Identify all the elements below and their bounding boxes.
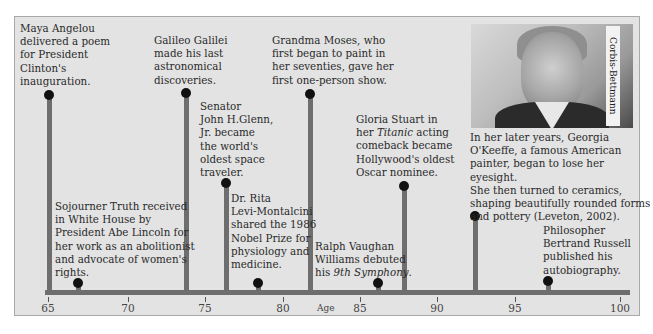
tick-label-65: 65 (41, 302, 54, 314)
label-russell: Philosopher Bertrand Russell published h… (543, 224, 631, 277)
label-truth: Sojourner Truth received in White House … (55, 200, 195, 279)
label-levi: Dr. Rita Levi-Montalcini shared the 1986… (231, 192, 316, 271)
tick-label-85: 85 (353, 302, 366, 314)
spike-okeeffe (473, 218, 478, 291)
axis-label-age: Age (317, 303, 335, 313)
photo-credit: Corbis-Bettmann (606, 26, 620, 126)
spike-glenn (224, 185, 229, 291)
tick-label-75: 75 (198, 302, 211, 314)
label-williams: Ralph Vaughan Williams debuted his 9th S… (315, 240, 412, 280)
spike-angelou (47, 95, 52, 291)
age-axis (45, 290, 630, 295)
tick-label-70: 70 (121, 302, 134, 314)
dot-glenn (221, 178, 231, 188)
dot-levi (253, 278, 263, 288)
label-glenn: Senator John H.Glenn, Jr. became the wor… (200, 100, 273, 179)
tick-label-80: 80 (276, 302, 289, 314)
dot-moses (305, 89, 315, 99)
dot-truth (73, 278, 83, 288)
dot-galileo (181, 88, 191, 98)
dot-stuart (399, 181, 409, 191)
label-okeeffe: In her later years, Georgia O'Keeffe, a … (470, 131, 653, 223)
label-galileo: Galileo Galilei made his last astronomic… (154, 34, 227, 87)
label-angelou: Maya Angelou delivered a poem for Presid… (20, 22, 110, 88)
dot-angelou (44, 90, 54, 100)
tick-label-90: 90 (430, 302, 443, 314)
photo-face (521, 32, 583, 112)
dot-russell (543, 276, 553, 286)
label-moses: Grandma Moses, who first began to paint … (272, 34, 394, 87)
tick-label-100: 100 (610, 302, 630, 314)
tick-label-95: 95 (508, 302, 521, 314)
label-stuart: Gloria Stuart in her Titanic acting come… (356, 113, 454, 179)
